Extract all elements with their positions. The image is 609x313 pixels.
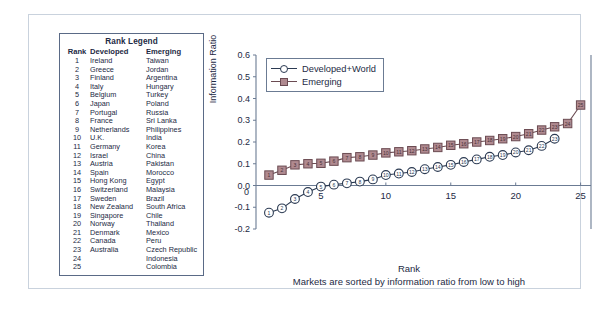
figure-frame: Rank Legend Rank Developed Emerging 1Ire… xyxy=(28,14,581,289)
data-point-label: 5 xyxy=(320,160,323,166)
chart-plot-area: Information Ratio -0.2-0.10.00.10.20.30.… xyxy=(214,33,604,301)
data-point-label: 6 xyxy=(332,158,335,164)
rank-legend-table: Rank Legend Rank Developed Emerging 1Ire… xyxy=(59,33,204,276)
data-point-label: 13 xyxy=(422,146,428,152)
data-point-label: 22 xyxy=(539,143,545,149)
rank-legend-row: 21DenmarkMexico xyxy=(64,229,199,238)
rank-legend-row: 23AustraliaCzech Republic xyxy=(64,246,199,255)
rank-legend-row: 14SpainMorocco xyxy=(64,169,199,178)
data-point-label: 2 xyxy=(281,205,284,211)
data-point-label: 8 xyxy=(358,179,361,185)
data-point-label: 1 xyxy=(268,172,271,178)
data-point-label: 4 xyxy=(307,189,310,195)
rank-legend-row: 20NorwayThailand xyxy=(64,220,199,229)
data-point-label: 16 xyxy=(461,159,467,165)
rank-legend-row: 11GermanyKorea xyxy=(64,143,199,152)
x-axis-label: Rank xyxy=(214,263,604,274)
data-point-label: 19 xyxy=(500,152,506,158)
legend-entry-developed-world[interactable]: Developed+World xyxy=(271,62,376,75)
emerging-cell: Colombia xyxy=(146,263,199,272)
data-point-label: 5 xyxy=(320,184,323,190)
rank-legend-grid: Rank Developed Emerging 1IrelandTaiwan2G… xyxy=(64,47,199,272)
data-point-label: 14 xyxy=(435,164,441,170)
rank-legend-title: Rank Legend xyxy=(64,37,199,46)
data-point-label: 17 xyxy=(474,156,480,162)
data-point-label: 23 xyxy=(552,136,558,142)
data-point-label: 10 xyxy=(383,150,389,156)
data-point-label: 18 xyxy=(487,137,493,143)
rank-legend-row: 10U.K.India xyxy=(64,134,199,143)
rank-legend-row: 6JapanPoland xyxy=(64,100,199,109)
data-point-label: 20 xyxy=(513,149,519,155)
rank-legend-row: 15Hong KongEgypt xyxy=(64,177,199,186)
data-point-label: 4 xyxy=(307,161,310,167)
data-point-label: 9 xyxy=(371,176,374,182)
rank-legend-row: 19SingaporeChile xyxy=(64,212,199,221)
data-point-label: 22 xyxy=(539,127,545,133)
data-point-label: 24 xyxy=(565,121,571,127)
data-point-label: 6 xyxy=(332,182,335,188)
data-point-label: 11 xyxy=(396,171,401,177)
data-point-label: 16 xyxy=(461,141,467,147)
rank-legend-row: 7PortugalRussia xyxy=(64,109,199,118)
data-point-label: 10 xyxy=(383,172,389,178)
rank-legend-body: 1IrelandTaiwan2GreeceJordan3FinlandArgen… xyxy=(64,57,199,272)
data-point-label: 25 xyxy=(578,102,584,108)
rank-legend-row: 13AustriaPakistan xyxy=(64,160,199,169)
data-point-label: 17 xyxy=(474,139,480,145)
rank-legend-row: 2GreeceJordan xyxy=(64,66,199,75)
rank-legend-header-row: Rank Developed Emerging xyxy=(64,47,199,57)
data-point-label: 3 xyxy=(294,162,297,168)
data-point-label: 19 xyxy=(500,136,506,142)
rank-legend-row: 12IsraelChina xyxy=(64,152,199,161)
data-point-label: 20 xyxy=(513,134,519,140)
data-point-label: 15 xyxy=(448,162,454,168)
rank-legend-row: 1IrelandTaiwan xyxy=(64,57,199,66)
rank-legend-row: 18New ZealandSouth Africa xyxy=(64,203,199,212)
rank-legend-row: 9NetherlandsPhilippines xyxy=(64,126,199,135)
rank-legend-row: 3FinlandArgentina xyxy=(64,74,199,83)
legend-label-developed-world: Developed+World xyxy=(302,64,376,74)
data-point-label: 15 xyxy=(448,142,454,148)
data-point-label: 18 xyxy=(487,154,493,160)
developed-cell xyxy=(90,255,146,264)
data-point-label: 7 xyxy=(345,180,348,186)
data-point-label: 8 xyxy=(358,154,361,160)
rank-legend-row: 16SwitzerlandMalaysia xyxy=(64,186,199,195)
open-circle-marker-icon xyxy=(271,63,297,74)
data-point-label: 1 xyxy=(268,210,271,216)
data-point-label: 3 xyxy=(294,196,297,202)
chart-series-legend: Developed+World Emerging xyxy=(266,58,384,92)
data-point-label: 12 xyxy=(409,148,415,154)
filled-square-marker-icon xyxy=(271,76,297,87)
legend-label-emerging: Emerging xyxy=(302,77,342,87)
data-point-label: 12 xyxy=(409,169,415,175)
data-point-label: 13 xyxy=(422,166,428,172)
data-point-label: 21 xyxy=(526,147,532,153)
rank-legend-row: 24Indonesia xyxy=(64,255,199,264)
developed-cell xyxy=(90,263,146,272)
data-point-label: 23 xyxy=(552,124,558,130)
developed-cell: Australia xyxy=(90,246,146,255)
rank-cell: 25 xyxy=(64,263,90,272)
data-point-label: 21 xyxy=(526,131,532,137)
rank-legend-row: 4ItalyHungary xyxy=(64,83,199,92)
rank-legend-row: 25Colombia xyxy=(64,263,199,272)
data-point-label: 14 xyxy=(435,144,441,150)
legend-entry-emerging[interactable]: Emerging xyxy=(271,75,376,88)
data-point-label: 7 xyxy=(345,155,348,161)
data-point-label: 2 xyxy=(281,167,284,173)
rank-legend-row: 5BelgiumTurkey xyxy=(64,91,199,100)
x-axis-sublabel: Markets are sorted by information ratio … xyxy=(214,276,604,287)
data-point-label: 9 xyxy=(371,152,374,158)
data-point-label: 11 xyxy=(396,149,401,155)
